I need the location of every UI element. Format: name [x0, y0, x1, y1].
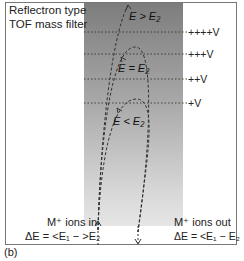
ions-in-label: M⁺ ions in — [47, 216, 97, 229]
ions-out-label: M⁺ ions out — [174, 216, 231, 229]
voltage-label-2: ++V — [188, 73, 207, 85]
voltage-label-1: +V — [188, 97, 201, 109]
voltage-label-4: ++++V — [188, 26, 220, 38]
ions-in-energy: ΔE = <E₁ − >E₂ — [25, 230, 100, 242]
trajectory-label-low: E < E₂ — [113, 115, 144, 127]
diagram-title-line1: Reflectron type — [9, 4, 86, 16]
diagram-title-line2: TOF mass filter — [9, 18, 87, 30]
panel-label: (b) — [4, 246, 17, 258]
trajectory-label-equal: E = E₂ — [118, 62, 149, 74]
voltage-label-3: +++V — [188, 48, 213, 60]
ions-out-energy: ΔE = <E₁ − E₂ — [174, 230, 240, 242]
trajectory-label-high: E > E₂ — [129, 10, 160, 22]
